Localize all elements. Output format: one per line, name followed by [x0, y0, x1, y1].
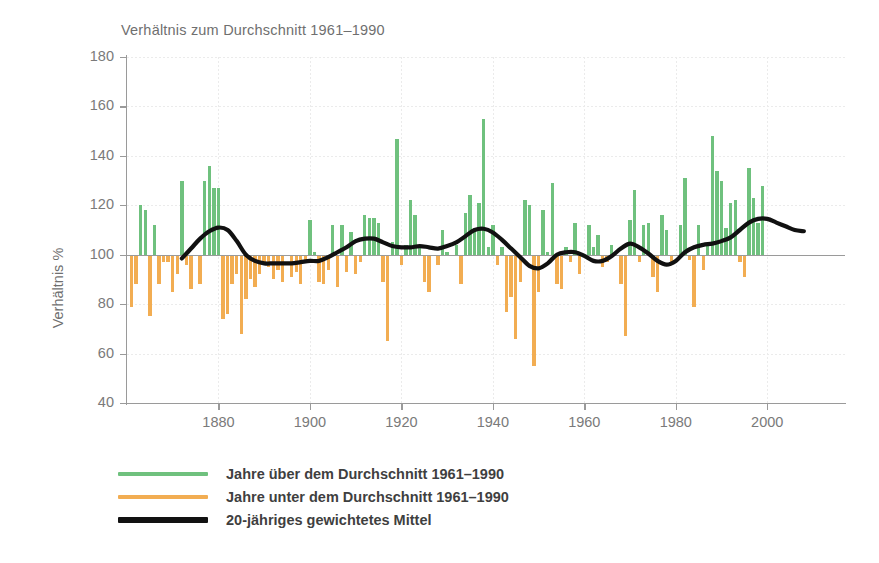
y-tick-label: 160 [68, 97, 114, 113]
x-tick-label: 2000 [737, 414, 797, 430]
legend-label-above: Jahre über dem Durchschnitt 1961–1990 [226, 466, 504, 482]
trend-line [127, 57, 845, 403]
y-tick [120, 205, 127, 206]
y-tick [120, 304, 127, 305]
y-tick-label: 120 [68, 196, 114, 212]
x-tick [218, 403, 219, 410]
y-tick [120, 354, 127, 355]
y-axis-title: Verhältnis % [50, 218, 66, 358]
x-tick [767, 403, 768, 410]
plot-area [127, 57, 845, 403]
legend-label-below: Jahre unter dem Durchschnitt 1961–1990 [226, 489, 509, 505]
y-tick-label: 100 [68, 246, 114, 262]
trend-path [182, 218, 804, 268]
x-tick-label: 1920 [371, 414, 431, 430]
y-tick-label: 180 [68, 48, 114, 64]
legend-swatch-trend [118, 517, 208, 523]
y-tick [120, 106, 127, 107]
x-tick [310, 403, 311, 410]
chart-legend: Jahre über dem Durchschnitt 1961–1990 Ja… [118, 462, 509, 531]
y-tick-label: 140 [68, 147, 114, 163]
x-tick [584, 403, 585, 410]
y-tick-label: 60 [68, 345, 114, 361]
legend-label-trend: 20-jähriges gewichtetes Mittel [226, 512, 431, 528]
legend-swatch-below [118, 495, 208, 499]
x-tick-label: 1940 [463, 414, 523, 430]
chart-container: Verhältnis zum Durchschnitt 1961–1990 Ve… [0, 0, 879, 563]
y-tick [120, 255, 127, 256]
y-tick [120, 57, 127, 58]
y-tick-label: 40 [68, 394, 114, 410]
x-tick [401, 403, 402, 410]
legend-item-above: Jahre über dem Durchschnitt 1961–1990 [118, 462, 509, 485]
y-tick-label: 80 [68, 295, 114, 311]
x-tick-label: 1900 [280, 414, 340, 430]
x-tick [493, 403, 494, 410]
legend-item-trend: 20-jähriges gewichtetes Mittel [118, 508, 509, 531]
legend-item-below: Jahre unter dem Durchschnitt 1961–1990 [118, 485, 509, 508]
x-tick-label: 1980 [646, 414, 706, 430]
x-axis-line [126, 403, 846, 404]
legend-swatch-above [118, 472, 208, 476]
chart-title: Verhältnis zum Durchschnitt 1961–1990 [121, 22, 385, 38]
x-tick-label: 1960 [554, 414, 614, 430]
y-tick [120, 156, 127, 157]
x-tick-label: 1880 [188, 414, 248, 430]
y-tick [120, 403, 127, 404]
x-tick [676, 403, 677, 410]
